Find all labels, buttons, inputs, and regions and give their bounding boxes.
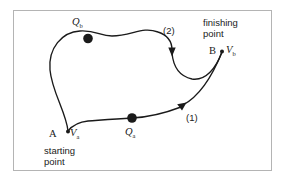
label-point-a: A bbox=[49, 128, 57, 140]
curve-path-2 bbox=[50, 30, 172, 131]
starting-point-line-1: starting bbox=[44, 145, 75, 156]
label-starting-point: starting point bbox=[44, 145, 75, 167]
label-vb-subscript: b bbox=[232, 50, 235, 57]
node-dot-q-upper bbox=[83, 34, 93, 44]
finishing-point-line-1: finishing bbox=[203, 17, 238, 28]
arrowhead-path-1 bbox=[177, 103, 186, 111]
label-va-subscript: a bbox=[76, 133, 79, 140]
finishing-point-line-2: point bbox=[203, 28, 238, 39]
starting-point-line-2: point bbox=[44, 156, 75, 167]
label-q-lower-letter: Q bbox=[125, 126, 133, 137]
label-path-1: (1) bbox=[186, 113, 198, 124]
arrowhead-path-2 bbox=[168, 48, 175, 57]
label-va: Va bbox=[70, 127, 79, 140]
label-point-b: B bbox=[209, 45, 216, 57]
label-vb: Vb bbox=[226, 44, 236, 57]
figure-root: Qb Qa (2) (1) finishing point B Vb A Va … bbox=[0, 0, 288, 187]
label-q-upper-letter: Q bbox=[72, 16, 80, 27]
label-finishing-point: finishing point bbox=[203, 17, 238, 39]
node-dot-q-lower bbox=[127, 113, 137, 123]
label-path-2: (2) bbox=[163, 26, 175, 37]
node-dot-b bbox=[220, 50, 224, 54]
label-q-upper-subscript: b bbox=[80, 22, 83, 29]
label-q-upper: Qb bbox=[72, 16, 83, 29]
label-q-lower-subscript: a bbox=[133, 132, 136, 139]
label-q-lower: Qa bbox=[125, 126, 135, 139]
